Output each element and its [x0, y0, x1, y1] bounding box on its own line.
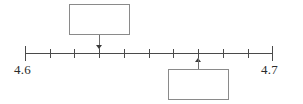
tick-4.62 [74, 49, 75, 58]
lower-callout-label [169, 70, 228, 99]
axis-end-label: 4.7 [261, 63, 278, 76]
tick-4.60 [25, 46, 26, 61]
lower-callout-box[interactable] [168, 69, 229, 100]
tick-4.70 [272, 46, 273, 61]
tick-4.67 [198, 49, 199, 58]
tick-4.68 [223, 49, 224, 58]
number-line-figure: 4.6 4.7 [0, 0, 303, 104]
tick-4.61 [50, 49, 51, 58]
upper-callout-label [70, 5, 129, 34]
tick-4.66 [173, 49, 174, 58]
tick-4.63 [99, 49, 100, 58]
tick-4.64 [124, 49, 125, 58]
axis-start-label: 4.6 [14, 63, 31, 76]
upper-callout-box[interactable] [69, 4, 130, 35]
tick-4.69 [248, 49, 249, 58]
tick-4.65 [149, 49, 150, 58]
